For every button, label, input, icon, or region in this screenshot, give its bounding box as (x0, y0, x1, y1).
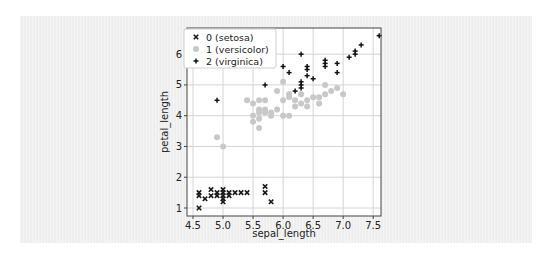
circle-marker-icon (244, 97, 250, 103)
circle-marker-icon (280, 97, 286, 103)
x-tick-label: 5.0 (215, 220, 231, 231)
legend-label: 2 (virginica) (206, 56, 263, 67)
y-axis-ticks: 123456 (176, 49, 187, 214)
circle-marker-icon (298, 91, 304, 97)
circle-marker-icon (274, 107, 280, 113)
y-tick-label: 5 (176, 79, 182, 90)
circle-marker-icon (280, 79, 286, 85)
circle-marker-icon (286, 113, 292, 119)
circle-marker-icon (316, 94, 322, 100)
circle-marker-icon (310, 94, 316, 100)
circle-marker-icon (292, 103, 298, 109)
circle-marker-icon (340, 91, 346, 97)
circle-marker-icon (256, 125, 262, 131)
y-axis-label: petal_length (159, 91, 171, 153)
circle-marker-icon (322, 82, 328, 88)
x-tick-label: 7.5 (365, 220, 381, 231)
y-tick-label: 6 (176, 49, 182, 60)
legend-label: 0 (setosa) (206, 32, 254, 43)
circle-marker-icon (220, 143, 226, 149)
circle-marker-icon (334, 85, 340, 91)
circle-marker-icon (298, 100, 304, 106)
circle-marker-icon (304, 103, 310, 109)
circle-marker-icon (256, 116, 262, 122)
legend-label: 1 (versicolor) (206, 44, 269, 55)
circle-marker-icon (304, 97, 310, 103)
y-tick-label: 1 (176, 203, 182, 214)
scatter-chart: 4.55.05.56.06.57.07.5 123456 sepal_lengt… (0, 0, 548, 258)
circle-marker-icon (274, 88, 280, 94)
circle-marker-icon (256, 107, 262, 113)
y-tick-label: 2 (176, 172, 182, 183)
circle-marker-icon (292, 97, 298, 103)
circle-marker-icon (316, 100, 322, 106)
circle-marker-icon (262, 97, 268, 103)
circle-marker-icon (322, 91, 328, 97)
circle-marker-icon (214, 134, 220, 140)
circle-marker-icon (280, 113, 286, 119)
circle-marker-icon (250, 100, 256, 106)
circle-marker-icon (256, 97, 262, 103)
circle-marker-icon (262, 107, 268, 113)
x-axis-label: sepal_length (252, 228, 316, 240)
circle-marker-icon (250, 113, 256, 119)
circle-marker-icon (250, 119, 256, 125)
circle-marker-icon (328, 88, 334, 94)
x-tick-label: 7.0 (335, 220, 351, 231)
circle-marker-icon (286, 94, 292, 100)
legend: 0 (setosa)1 (versicolor)2 (virginica) (184, 29, 276, 68)
y-tick-label: 3 (176, 141, 182, 152)
circle-marker-icon (268, 110, 274, 116)
circle-marker-icon (193, 46, 199, 52)
y-tick-label: 4 (176, 110, 182, 121)
x-tick-label: 4.5 (185, 220, 201, 231)
